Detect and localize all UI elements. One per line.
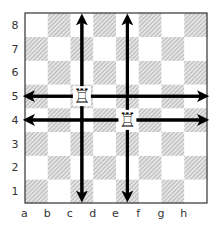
- file-label-f: f: [136, 207, 141, 220]
- rook-icon: ♖: [73, 84, 91, 108]
- file-label-e: e: [112, 207, 119, 220]
- rank-label-7: 7: [12, 43, 19, 56]
- square-h8: [184, 13, 207, 37]
- square-a3: [25, 132, 48, 156]
- chess-diagram: ♖♖ 12345678 abcdefgh: [0, 0, 221, 231]
- square-g2: [162, 156, 185, 180]
- square-h3: [184, 132, 207, 156]
- square-a8: [25, 13, 48, 37]
- square-f3: [139, 132, 162, 156]
- rank-label-2: 2: [12, 161, 19, 174]
- rank-label-4: 4: [12, 114, 19, 127]
- square-g6: [162, 61, 185, 85]
- square-d8: [93, 13, 116, 37]
- file-label-g: g: [157, 207, 164, 220]
- rank-label-1: 1: [12, 185, 19, 198]
- file-label-a: a: [21, 207, 28, 220]
- square-a2: [25, 156, 48, 180]
- square-d7: [93, 37, 116, 61]
- square-b2: [48, 156, 71, 180]
- rook-icon: ♖: [118, 108, 136, 132]
- file-labels: abcdefgh: [21, 207, 187, 220]
- rank-label-3: 3: [12, 138, 19, 151]
- square-d3: [93, 132, 116, 156]
- square-f8: [139, 13, 162, 37]
- square-b7: [48, 37, 71, 61]
- square-f1: [139, 179, 162, 203]
- square-f2: [139, 156, 162, 180]
- rank-label-8: 8: [12, 19, 19, 32]
- square-h1: [184, 179, 207, 203]
- square-h2: [184, 156, 207, 180]
- file-label-b: b: [44, 207, 51, 220]
- square-d6: [93, 61, 116, 85]
- square-b8: [48, 13, 71, 37]
- square-b3: [48, 132, 71, 156]
- rank-labels: 12345678: [12, 19, 19, 198]
- square-h6: [184, 61, 207, 85]
- square-g1: [162, 179, 185, 203]
- board-squares: [25, 13, 207, 203]
- square-b1: [48, 179, 71, 203]
- square-a7: [25, 37, 48, 61]
- square-f7: [139, 37, 162, 61]
- file-label-d: d: [89, 207, 96, 220]
- square-g7: [162, 37, 185, 61]
- rank-label-6: 6: [12, 66, 19, 79]
- square-d2: [93, 156, 116, 180]
- square-a6: [25, 61, 48, 85]
- white-rook-e4: ♖: [118, 108, 136, 132]
- square-h7: [184, 37, 207, 61]
- file-label-c: c: [67, 207, 73, 220]
- square-a1: [25, 179, 48, 203]
- square-b6: [48, 61, 71, 85]
- file-label-h: h: [180, 207, 187, 220]
- rank-label-5: 5: [12, 90, 19, 103]
- square-f6: [139, 61, 162, 85]
- square-g8: [162, 13, 185, 37]
- square-g3: [162, 132, 185, 156]
- square-d1: [93, 179, 116, 203]
- white-rook-c5: ♖: [73, 84, 91, 108]
